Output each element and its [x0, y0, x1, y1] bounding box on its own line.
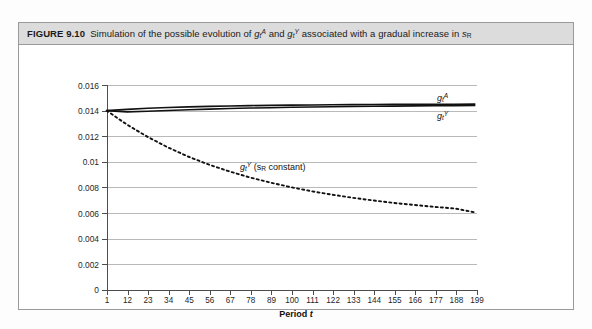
x-tick-label: 67 [226, 296, 235, 305]
x-tick-mark [333, 290, 334, 295]
x-tick-mark [271, 290, 272, 295]
figure-caption-bar: FIGURE 9.10 Simulation of the possible e… [19, 23, 573, 45]
x-tick-mark [374, 290, 375, 295]
x-tick-mark [189, 290, 190, 295]
x-tick-mark [354, 290, 355, 295]
series-label-g-y-constant: gtY (sR constant) [240, 161, 306, 172]
x-tick-label: 199 [470, 296, 484, 305]
x-tick-label: 23 [144, 296, 153, 305]
caption-text-after: associated with a gradual increase in [299, 28, 462, 39]
x-tick-mark [210, 290, 211, 295]
x-tick-mark [128, 290, 129, 295]
x-tick-mark [230, 290, 231, 295]
plot-wrapper: 0.016 0.014 0.012 0.01 0.008 0.006 0.004… [19, 45, 573, 310]
x-tick-label: 188 [450, 296, 464, 305]
x-tick-label: 166 [408, 296, 422, 305]
x-tick-label: 177 [429, 296, 443, 305]
figure-caption: Simulation of the possible evolution of … [90, 28, 472, 39]
x-tick-label: 155 [388, 296, 402, 305]
x-tick-mark [107, 290, 108, 295]
x-tick-label: 1 [105, 296, 110, 305]
x-tick-mark [395, 290, 396, 295]
x-tick-label: 144 [367, 296, 381, 305]
x-tick-label: 100 [285, 296, 299, 305]
curves-svg [19, 45, 573, 310]
curve-g-y [107, 106, 476, 112]
x-tick-label: 89 [267, 296, 276, 305]
figure-number: FIGURE 9.10 [27, 28, 85, 39]
x-tick-mark [292, 290, 293, 295]
x-tick-label: 12 [123, 296, 132, 305]
x-axis-title: Period t [19, 309, 573, 319]
x-tick-mark [436, 290, 437, 295]
x-tick-label: 133 [347, 296, 361, 305]
x-tick-label: 56 [205, 296, 214, 305]
caption-text-before: Simulation of the possible evolution of [90, 28, 254, 39]
x-tick-mark [456, 290, 457, 295]
caption-text-and: and [266, 28, 287, 39]
x-tick-mark [477, 290, 478, 295]
x-tick-label: 34 [164, 296, 173, 305]
x-tick-label: 45 [185, 296, 194, 305]
caption-symbol-s-sub: R [467, 32, 472, 39]
x-tick-mark [169, 290, 170, 295]
x-tick-mark [251, 290, 252, 295]
x-tick-label: 122 [326, 296, 340, 305]
x-tick-mark [415, 290, 416, 295]
x-tick-mark [313, 290, 314, 295]
series-label-g-y: gtY [437, 110, 448, 121]
figure-container: FIGURE 9.10 Simulation of the possible e… [18, 22, 574, 310]
series-label-g-a: gtA [437, 92, 448, 103]
x-tick-mark [148, 290, 149, 295]
figure-page: FIGURE 9.10 Simulation of the possible e… [0, 0, 592, 329]
x-tick-label: 111 [306, 296, 318, 305]
x-tick-label: 78 [246, 296, 255, 305]
